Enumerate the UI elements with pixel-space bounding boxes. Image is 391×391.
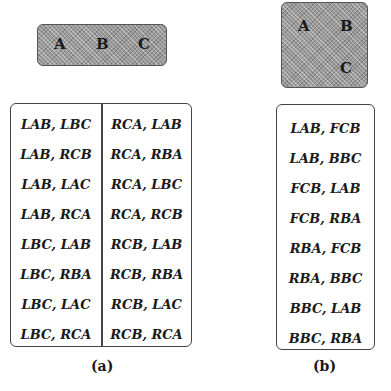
list-item: LAB, LBC [11,110,101,140]
list-item: LBC, LAC [11,290,101,320]
list-item: LAB, RCB [11,140,101,170]
list-item: LBC, RCA [11,320,101,350]
move-list-b: LAB, FCB LAB, BBC FCB, LAB FCB, RBA RBA,… [276,104,375,350]
node-b: B [96,37,109,52]
caption-b: (b) [313,358,336,374]
node-a: A [298,19,310,34]
list-item: RCB, RBA [102,260,191,290]
list-item: LBC, RBA [11,260,101,290]
config-box-b: A B C [281,2,368,88]
node-a: A [54,37,66,52]
list-item: RCA, LBC [102,170,191,200]
list-item: FCB, LAB [277,174,374,204]
list-item: LAB, BBC [277,144,374,174]
list-item: RCB, RCA [102,320,191,350]
list-item: BBC, LAB [277,294,374,324]
caption-a: (a) [91,358,113,374]
list-item: RCB, LAB [102,230,191,260]
right-column: RCA, LAB RCA, RBA RCA, LBC RCA, RCB RCB,… [102,110,191,350]
list-item: LAB, FCB [277,114,374,144]
list-item: LBC, LAB [11,230,101,260]
config-box-a: A B C [37,24,167,66]
list-item: BBC, RBA [277,324,374,354]
list-item: RCB, LAC [102,290,191,320]
left-column: LAB, LBC LAB, RCB LAB, LAC LAB, RCA LBC,… [11,110,101,350]
list-item: FCB, RBA [277,204,374,234]
list-item: RCA, RBA [102,140,191,170]
node-c: C [340,61,352,76]
list-item: RCA, RCB [102,200,191,230]
node-b: B [340,19,353,34]
list-item: LAB, RCA [11,200,101,230]
node-c: C [138,37,150,52]
list-item: RBA, BBC [277,264,374,294]
list-item: LAB, LAC [11,170,101,200]
single-column: LAB, FCB LAB, BBC FCB, LAB FCB, RBA RBA,… [277,114,374,354]
list-item: RCA, LAB [102,110,191,140]
move-list-a: LAB, LBC LAB, RCB LAB, LAC LAB, RCA LBC,… [10,103,192,347]
list-item: RBA, FCB [277,234,374,264]
